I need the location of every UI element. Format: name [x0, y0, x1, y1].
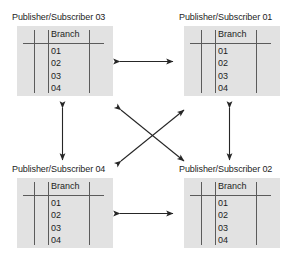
branch-table-panel: Branch 01 02 03 04 [17, 178, 113, 248]
table-vertical-rule-mid [48, 182, 49, 245]
table-column-header-branch: Branch [218, 29, 247, 40]
node-publisher-subscriber-02[interactable]: Publisher/Subscriber 02 Branch 01 02 03 … [178, 164, 294, 248]
table-header-rule [190, 43, 271, 44]
table-vertical-rule-left [34, 182, 35, 245]
table-vertical-rule-mid [48, 30, 49, 93]
node-title: Publisher/Subscriber 04 [11, 164, 133, 175]
branch-table-panel: Branch 01 02 03 04 [184, 178, 280, 248]
branch-table-panel: Branch 01 02 03 04 [17, 26, 113, 96]
table-cell-branch: 03 [218, 222, 228, 234]
table-cell-branch: 01 [51, 45, 61, 57]
node-publisher-subscriber-03[interactable]: Publisher/Subscriber 03 Branch 01 02 03 … [11, 12, 133, 96]
node-publisher-subscriber-01[interactable]: Publisher/Subscriber 01 Branch 01 02 03 … [178, 12, 294, 96]
replication-topology-diagram: Publisher/Subscriber 03 Branch 01 02 03 … [0, 0, 294, 268]
table-vertical-rule-right [89, 30, 90, 93]
table-cell-branch: 03 [51, 222, 61, 234]
node-title: Publisher/Subscriber 03 [11, 12, 133, 23]
table-vertical-rule-left [34, 30, 35, 93]
table-vertical-rule-mid [215, 30, 216, 93]
table-vertical-rule-right [256, 182, 257, 245]
table-cell-branch: 01 [218, 197, 228, 209]
table-rows: 01 02 03 04 [218, 45, 228, 95]
table-cell-branch: 03 [218, 70, 228, 82]
table-cell-branch: 04 [218, 82, 228, 94]
table-header-rule [190, 195, 271, 196]
table-cell-branch: 01 [218, 45, 228, 57]
table-cell-branch: 04 [218, 234, 228, 246]
table-vertical-rule-right [256, 30, 257, 93]
table-vertical-rule-left [201, 182, 202, 245]
table-header-rule [23, 195, 104, 196]
table-cell-branch: 02 [51, 57, 61, 69]
node-publisher-subscriber-04[interactable]: Publisher/Subscriber 04 Branch 01 02 03 … [11, 164, 133, 248]
node-title: Publisher/Subscriber 02 [178, 164, 294, 175]
table-vertical-rule-right [89, 182, 90, 245]
node-title: Publisher/Subscriber 01 [178, 12, 294, 23]
connection-diagonal-sw-ne [121, 110, 184, 161]
table-column-header-branch: Branch [51, 29, 80, 40]
table-rows: 01 02 03 04 [218, 197, 228, 247]
table-column-header-branch: Branch [218, 181, 247, 192]
connection-diagonal-nw-se [121, 110, 184, 161]
table-cell-branch: 02 [51, 209, 61, 221]
table-cell-branch: 03 [51, 70, 61, 82]
table-cell-branch: 02 [218, 209, 228, 221]
table-header-rule [23, 43, 104, 44]
table-rows: 01 02 03 04 [51, 45, 61, 95]
table-vertical-rule-left [201, 30, 202, 93]
table-column-header-branch: Branch [51, 181, 80, 192]
branch-table-panel: Branch 01 02 03 04 [184, 26, 280, 96]
table-cell-branch: 04 [51, 82, 61, 94]
table-cell-branch: 02 [218, 57, 228, 69]
table-vertical-rule-mid [215, 182, 216, 245]
table-cell-branch: 04 [51, 234, 61, 246]
table-cell-branch: 01 [51, 197, 61, 209]
table-rows: 01 02 03 04 [51, 197, 61, 247]
